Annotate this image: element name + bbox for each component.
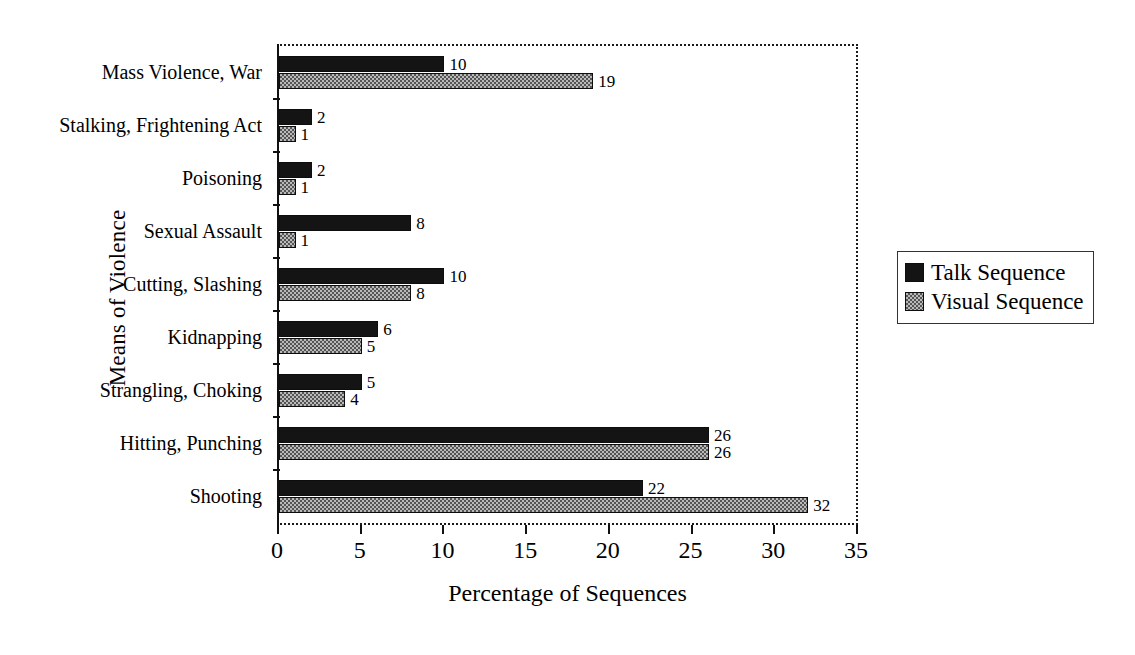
y-axis-tick-label: Kidnapping — [60, 311, 270, 364]
bar-group: 2626 — [279, 417, 858, 470]
bar-visual-sequence[interactable] — [279, 126, 296, 142]
bar-visual-sequence[interactable] — [279, 391, 345, 407]
x-axis-tick-label: 25 — [679, 536, 703, 564]
bar-value-label: 1 — [301, 179, 310, 196]
y-axis-tick-label: Poisoning — [60, 152, 270, 205]
bar-visual-sequence[interactable] — [279, 444, 709, 460]
x-axis-tick-label: 20 — [596, 536, 620, 564]
bar-value-label: 10 — [449, 268, 466, 285]
bar-row: 1 — [279, 126, 858, 142]
bar-row: 5 — [279, 338, 858, 354]
bar-row: 2 — [279, 109, 858, 125]
legend-item[interactable]: Visual Sequence — [905, 287, 1084, 316]
x-axis-tick-label: 5 — [354, 536, 366, 564]
bar-row: 4 — [279, 391, 858, 407]
y-axis-tick-label: Shooting — [60, 470, 270, 523]
bar-value-label: 2 — [317, 162, 326, 179]
bar-value-label: 1 — [301, 126, 310, 143]
x-axis-tick-labels: 05101520253035 — [277, 536, 858, 566]
bar-group-bars: 1019 — [279, 46, 858, 99]
bar-row: 19 — [279, 73, 858, 89]
bar-value-label: 1 — [301, 232, 310, 249]
bar-row: 10 — [279, 268, 858, 284]
bar-row: 1 — [279, 232, 858, 248]
legend-label: Talk Sequence — [931, 261, 1065, 285]
bar-visual-sequence[interactable] — [279, 73, 593, 89]
bar-visual-sequence[interactable] — [279, 285, 411, 301]
bar-talk-sequence[interactable] — [279, 427, 709, 443]
y-axis-tick-label: Stalking, Frightening Act — [60, 99, 270, 152]
bar-row: 26 — [279, 427, 858, 443]
bar-value-label: 6 — [383, 321, 392, 338]
x-axis-tick-mark — [856, 525, 858, 534]
bar-visual-sequence[interactable] — [279, 497, 808, 513]
bar-group: 2232 — [279, 470, 858, 523]
x-axis-tick-label: 35 — [844, 536, 868, 564]
bar-value-label: 32 — [813, 497, 830, 514]
bar-visual-sequence[interactable] — [279, 179, 296, 195]
bar-row: 22 — [279, 480, 858, 496]
x-axis-tick-mark — [277, 525, 279, 534]
bar-group-bars: 2626 — [279, 417, 858, 470]
bar-group: 21 — [279, 99, 858, 152]
bar-talk-sequence[interactable] — [279, 374, 362, 390]
bar-value-label: 8 — [416, 215, 425, 232]
bar-group: 108 — [279, 258, 858, 311]
bar-group-bars: 21 — [279, 152, 858, 205]
y-axis-tick-label: Hitting, Punching — [60, 417, 270, 470]
x-axis-tick-mark — [360, 525, 362, 534]
bar-row: 8 — [279, 285, 858, 301]
x-axis-tick-mark — [525, 525, 527, 534]
legend-swatch-talk-icon — [905, 263, 924, 282]
bar-group: 54 — [279, 364, 858, 417]
x-axis-tick-label: 30 — [761, 536, 785, 564]
bar-value-label: 4 — [350, 391, 359, 408]
bar-value-label: 26 — [714, 444, 731, 461]
bar-talk-sequence[interactable] — [279, 56, 444, 72]
bar-visual-sequence[interactable] — [279, 338, 362, 354]
x-axis-tick-mark — [442, 525, 444, 534]
bar-group-bars: 2232 — [279, 470, 858, 523]
bar-value-label: 19 — [598, 73, 615, 90]
bar-value-label: 8 — [416, 285, 425, 302]
x-axis-tick-label: 0 — [271, 536, 283, 564]
bar-value-label: 5 — [367, 338, 376, 355]
bar-talk-sequence[interactable] — [279, 215, 411, 231]
bar-group-bars: 54 — [279, 364, 858, 417]
bar-talk-sequence[interactable] — [279, 480, 643, 496]
y-axis-tick-labels: Mass Violence, WarStalking, Frightening … — [60, 46, 270, 523]
bar-row: 10 — [279, 56, 858, 72]
bar-talk-sequence[interactable] — [279, 268, 444, 284]
bar-talk-sequence[interactable] — [279, 109, 312, 125]
legend-item[interactable]: Talk Sequence — [905, 258, 1084, 287]
y-axis-tick-label: Sexual Assault — [60, 205, 270, 258]
bar-row: 32 — [279, 497, 858, 513]
legend-swatch-visual-icon — [905, 292, 924, 311]
bar-group: 65 — [279, 311, 858, 364]
x-axis-ticks — [277, 525, 858, 535]
x-axis-tick-mark — [691, 525, 693, 534]
bar-value-label: 5 — [367, 374, 376, 391]
bar-row: 8 — [279, 215, 858, 231]
bar-row: 6 — [279, 321, 858, 337]
bar-talk-sequence[interactable] — [279, 162, 312, 178]
bar-group-bars: 21 — [279, 99, 858, 152]
x-axis-title: Percentage of Sequences — [277, 580, 858, 607]
x-axis-tick-label: 15 — [513, 536, 537, 564]
bar-group: 21 — [279, 152, 858, 205]
bar-row: 1 — [279, 179, 858, 195]
bar-talk-sequence[interactable] — [279, 321, 378, 337]
bar-value-label: 22 — [648, 480, 665, 497]
chart-figure: Means of Violence Mass Violence, WarStal… — [0, 0, 1135, 655]
bar-row: 2 — [279, 162, 858, 178]
bar-group: 81 — [279, 205, 858, 258]
bar-visual-sequence[interactable] — [279, 232, 296, 248]
bar-group-bars: 65 — [279, 311, 858, 364]
y-axis-tick-label: Strangling, Choking — [60, 364, 270, 417]
x-axis-tick-mark — [608, 525, 610, 534]
bar-group: 1019 — [279, 46, 858, 99]
legend-label: Visual Sequence — [931, 290, 1084, 314]
y-axis-tick-label: Cutting, Slashing — [60, 258, 270, 311]
bar-groups: 1019212181108655426262232 — [279, 46, 858, 523]
bar-value-label: 10 — [449, 56, 466, 73]
